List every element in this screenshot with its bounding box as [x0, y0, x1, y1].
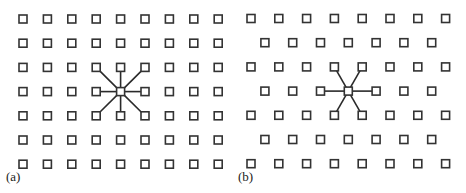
lattice-node: [68, 112, 76, 120]
lattice-node: [358, 111, 366, 119]
lattice-node: [19, 39, 27, 47]
lattice-node: [275, 15, 283, 23]
lattice-node: [414, 63, 422, 71]
lattice-node: [442, 160, 450, 168]
lattice-node: [386, 111, 394, 119]
lattice-node: [247, 63, 255, 71]
lattice-node: [275, 160, 283, 168]
lattice-node: [165, 63, 173, 71]
lattice-node: [19, 160, 27, 168]
lattice-node: [372, 39, 380, 47]
lattice-node: [165, 39, 173, 47]
lattice-node: [190, 15, 198, 23]
lattice-node: [117, 136, 125, 144]
lattice-node: [165, 136, 173, 144]
lattice-node: [428, 39, 436, 47]
lattice-node: [303, 15, 311, 23]
lattice-node: [165, 112, 173, 120]
lattice-node: [43, 160, 51, 168]
lattice-node: [303, 160, 311, 168]
lattice-node: [190, 160, 198, 168]
lattice-node: [43, 63, 51, 71]
lattice-node: [344, 39, 352, 47]
lattice-node: [92, 15, 100, 23]
lattice-node: [414, 160, 422, 168]
panel-b-label: (b): [238, 169, 253, 184]
lattice-node: [214, 88, 222, 96]
lattice-node: [317, 39, 325, 47]
lattice-node: [414, 15, 422, 23]
lattice-node: [317, 87, 325, 95]
lattice-node: [92, 39, 100, 47]
lattice-node: [372, 87, 380, 95]
lattice-node: [117, 160, 125, 168]
lattice-node: [19, 15, 27, 23]
lattice-node: [92, 112, 100, 120]
lattice-node: [92, 160, 100, 168]
lattice-node: [165, 15, 173, 23]
lattice-node: [141, 88, 149, 96]
lattice-node: [141, 63, 149, 71]
lattice-node: [414, 111, 422, 119]
lattice-node: [330, 63, 338, 71]
lattice-node: [442, 63, 450, 71]
lattice-node: [68, 39, 76, 47]
lattice-node: [386, 63, 394, 71]
lattice-node: [400, 136, 408, 144]
lattice-node: [275, 63, 283, 71]
lattice-node: [247, 160, 255, 168]
lattice-node: [214, 39, 222, 47]
lattice-node: [43, 136, 51, 144]
lattice-node: [141, 15, 149, 23]
lattice-node: [214, 136, 222, 144]
lattice-node: [165, 160, 173, 168]
lattice-node: [317, 136, 325, 144]
lattice-node: [43, 39, 51, 47]
lattice-node: [372, 136, 380, 144]
lattice-node: [303, 63, 311, 71]
lattice-node: [117, 63, 125, 71]
lattice-node: [386, 15, 394, 23]
lattice-node: [190, 136, 198, 144]
lattice-node: [214, 63, 222, 71]
lattice-node: [117, 15, 125, 23]
lattice-node: [68, 88, 76, 96]
lattice-figure: (a) (b): [0, 0, 466, 193]
panel-a-label: (a): [6, 169, 20, 184]
lattice-node: [43, 112, 51, 120]
panel-b-hexagonal-lattice: (b): [238, 15, 450, 185]
lattice-node: [43, 88, 51, 96]
lattice-node: [92, 88, 100, 96]
lattice-node: [117, 39, 125, 47]
lattice-node: [19, 112, 27, 120]
lattice-node: [117, 112, 125, 120]
lattice-node: [141, 112, 149, 120]
lattice-node: [442, 15, 450, 23]
lattice-node: [330, 111, 338, 119]
lattice-node: [358, 63, 366, 71]
lattice-node: [141, 136, 149, 144]
lattice-node: [261, 39, 269, 47]
lattice-node: [261, 136, 269, 144]
lattice-node: [289, 87, 297, 95]
lattice-node: [247, 15, 255, 23]
lattice-node: [68, 63, 76, 71]
lattice-node: [190, 112, 198, 120]
lattice-node: [92, 136, 100, 144]
lattice-node: [289, 39, 297, 47]
lattice-node: [190, 88, 198, 96]
lattice-node: [358, 160, 366, 168]
lattice-node: [68, 160, 76, 168]
lattice-node: [428, 87, 436, 95]
lattice-node: [190, 63, 198, 71]
lattice-node: [442, 111, 450, 119]
center-node: [344, 87, 352, 95]
lattice-node: [43, 15, 51, 23]
lattice-node: [19, 88, 27, 96]
lattice-node: [19, 63, 27, 71]
lattice-node: [275, 111, 283, 119]
lattice-node: [19, 136, 27, 144]
panel-a-square-lattice: (a): [6, 15, 222, 184]
lattice-node: [68, 136, 76, 144]
lattice-node: [303, 111, 311, 119]
